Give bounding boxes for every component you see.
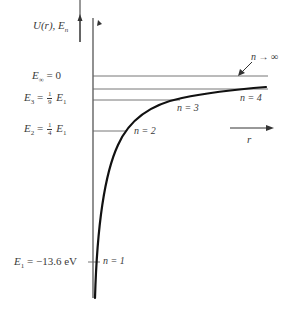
- e2-tail-subscript: 1: [63, 129, 67, 137]
- e1-value: = −13.6 eV: [27, 255, 77, 267]
- e-inf-value: = 0: [46, 69, 60, 81]
- e2-symbol: E: [24, 122, 31, 134]
- n-label-2: n = 2: [134, 126, 156, 136]
- e-inf-subscript: ∞: [39, 76, 44, 84]
- y-label-arrowhead-icon: [78, 14, 83, 21]
- level-label-e1: E1 = −13.6 eV: [14, 256, 77, 270]
- potential-curve: [95, 87, 266, 298]
- e1-symbol: E: [14, 255, 21, 267]
- r-arrowhead-icon: [266, 125, 274, 131]
- y-axis-label-main: U(r), E: [33, 19, 65, 31]
- y-axis-arrowhead: [97, 20, 102, 26]
- level-label-e3: E3 = 19 E1: [24, 91, 66, 106]
- e2-fraction: 14: [47, 122, 53, 137]
- r-axis-label: r: [247, 134, 251, 145]
- n-infinity-label: n → ∞: [251, 52, 278, 62]
- e2-subscript: 2: [31, 129, 35, 137]
- e3-subscript: 3: [31, 98, 35, 106]
- e2-tail-symbol: E: [56, 122, 63, 134]
- y-axis-label-sub: n: [65, 26, 69, 34]
- e-inf-symbol: E: [32, 69, 39, 81]
- e1-subscript: 1: [21, 262, 25, 270]
- n-label-1: n = 1: [103, 256, 125, 266]
- e3-symbol: E: [24, 91, 31, 103]
- n-label-3: n = 3: [177, 103, 199, 113]
- e3-fraction: 19: [47, 91, 53, 106]
- e3-equals: =: [37, 91, 43, 103]
- e2-equals: =: [37, 122, 43, 134]
- n-label-4: n = 4: [240, 93, 262, 103]
- level-label-e2: E2 = 14 E1: [24, 122, 66, 137]
- level-label-e-inf: E∞ = 0: [32, 70, 61, 84]
- e3-tail-subscript: 1: [63, 98, 67, 106]
- e3-tail-symbol: E: [56, 91, 63, 103]
- y-axis-label: U(r), En: [33, 20, 68, 34]
